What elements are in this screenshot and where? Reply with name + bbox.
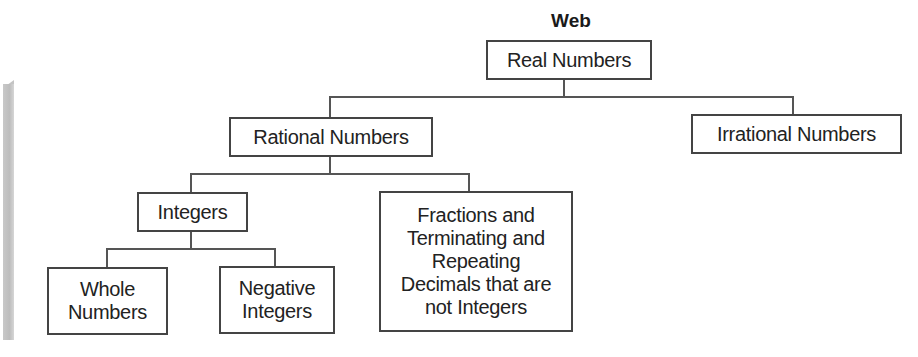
node-whole-numbers: Whole Numbers xyxy=(47,267,168,335)
connector-to-whole xyxy=(106,248,108,268)
connector-to-irrational xyxy=(792,96,794,114)
connector-integers-down xyxy=(190,231,192,249)
node-label: Fractions and Terminating and Repeating … xyxy=(401,204,552,319)
node-real-numbers: Real Numbers xyxy=(486,40,652,80)
connector-to-negative xyxy=(274,248,276,267)
side-bar-decoration xyxy=(3,84,14,340)
node-label: Integers xyxy=(158,201,228,224)
node-label: Irrational Numbers xyxy=(717,123,876,146)
connector-level1-horizontal xyxy=(329,96,794,98)
node-negative-integers: Negative Integers xyxy=(219,266,335,334)
node-label: Rational Numbers xyxy=(253,126,408,149)
connector-level3-horizontal xyxy=(106,248,276,250)
connector-level2-horizontal xyxy=(190,173,470,175)
connector-to-fractions xyxy=(468,173,470,192)
node-integers: Integers xyxy=(137,192,248,232)
diagram-title: Web xyxy=(536,10,606,32)
node-label: Whole Numbers xyxy=(68,278,147,324)
node-irrational-numbers: Irrational Numbers xyxy=(691,114,902,154)
node-label: Negative Integers xyxy=(239,277,316,323)
node-fractions-decimals: Fractions and Terminating and Repeating … xyxy=(379,191,573,332)
connector-to-integers xyxy=(190,173,192,193)
node-label: Real Numbers xyxy=(507,49,631,72)
node-rational-numbers: Rational Numbers xyxy=(229,117,433,157)
connector-rational-down xyxy=(329,156,331,174)
connector-to-rational xyxy=(329,96,331,118)
